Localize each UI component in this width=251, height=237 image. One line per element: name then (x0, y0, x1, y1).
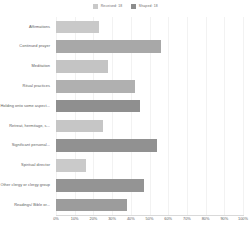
bar (56, 40, 161, 53)
category-label: Spiritual director (21, 163, 50, 168)
category-label-cell: Holding onto some aspect... (0, 96, 53, 116)
x-axis-ticks: 0%10%20%30%40%50%60%70%80%90%100% (56, 217, 243, 227)
category-label-cell: Meditation (0, 57, 53, 77)
bar (56, 179, 144, 192)
x-tick-label: 60% (164, 217, 172, 221)
bar (56, 139, 157, 152)
bar (56, 100, 140, 113)
legend-label-received: Received: 18 (101, 5, 123, 8)
category-label-cell: Ritual practices (0, 76, 53, 96)
bar-row (56, 57, 243, 77)
bar (56, 60, 108, 73)
x-tick-label: 100% (238, 217, 248, 221)
category-label-cell: Significant personal... (0, 136, 53, 156)
x-tick-label: 80% (202, 217, 210, 221)
category-label: Meditation (32, 64, 50, 69)
x-tick-label: 90% (220, 217, 228, 221)
category-label: Holding onto some aspect... (0, 104, 50, 109)
category-label-cell: Readings/ Bible or... (0, 195, 53, 215)
gridline (243, 17, 244, 215)
category-label: Retreat, hermitage, s... (9, 124, 50, 129)
bar-row (56, 116, 243, 136)
x-tick-label: 50% (146, 217, 154, 221)
bar-chart: Received: 18 Shaped: 18 AffirmationsCont… (0, 0, 251, 237)
bar (56, 199, 127, 212)
category-label-cell: Retreat, hermitage, s... (0, 116, 53, 136)
bar (56, 80, 135, 93)
chart-legend: Received: 18 Shaped: 18 (0, 1, 251, 12)
category-label-cell: Affirmations (0, 17, 53, 37)
bar-rows (56, 17, 243, 215)
plot-area (56, 17, 243, 215)
bar-row (56, 136, 243, 156)
legend-swatch-shaped (131, 4, 136, 9)
category-label: Continued prayer (19, 44, 50, 49)
bar-row (56, 195, 243, 215)
bar-row (56, 96, 243, 116)
bar-row (56, 156, 243, 176)
bar-row (56, 37, 243, 57)
legend-item-shaped: Shaped: 18 (131, 4, 157, 9)
category-label-cell: Other clergy or clergy group (0, 175, 53, 195)
bar-row (56, 175, 243, 195)
bar (56, 21, 99, 34)
bar (56, 159, 86, 172)
legend-swatch-received (93, 4, 98, 9)
category-axis: AffirmationsContinued prayerMeditationRi… (0, 17, 53, 215)
category-label-cell: Continued prayer (0, 37, 53, 57)
x-tick-label: 40% (127, 217, 135, 221)
x-tick-label: 30% (108, 217, 116, 221)
x-tick-label: 10% (71, 217, 79, 221)
x-tick-label: 70% (183, 217, 191, 221)
category-label-cell: Spiritual director (0, 156, 53, 176)
category-label: Affirmations (29, 25, 50, 30)
legend-label-shaped: Shaped: 18 (139, 5, 158, 8)
bar-row (56, 17, 243, 37)
category-label: Ritual practices (23, 84, 50, 89)
x-tick-label: 20% (89, 217, 97, 221)
bar-row (56, 76, 243, 96)
x-tick-label: 0% (53, 217, 59, 221)
category-label: Other clergy or clergy group (0, 183, 50, 188)
legend-item-received: Received: 18 (93, 4, 122, 9)
category-label: Readings/ Bible or... (14, 203, 50, 208)
bar (56, 120, 103, 133)
category-label: Significant personal... (12, 143, 50, 148)
